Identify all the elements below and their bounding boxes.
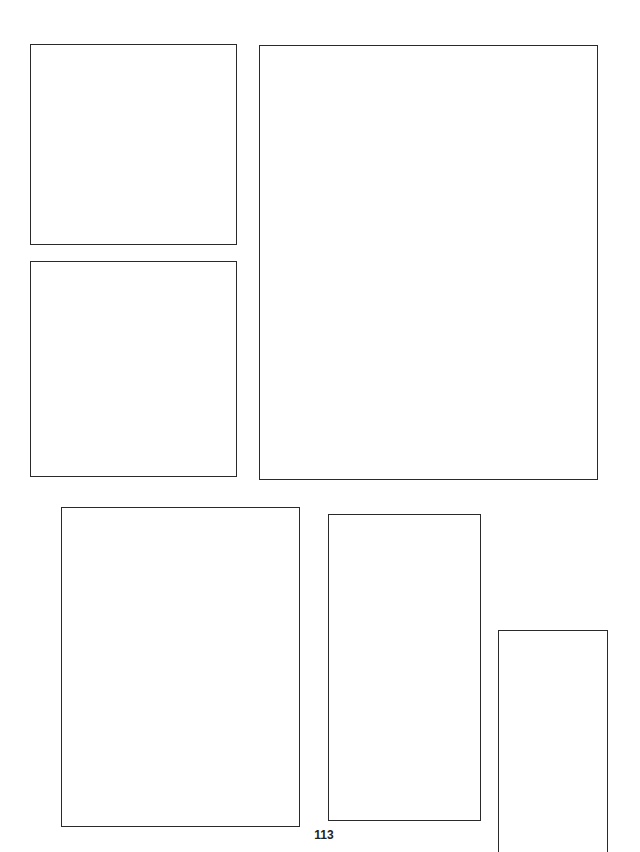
- panel-1: [30, 44, 237, 245]
- panel-5: [328, 514, 481, 821]
- panel-2: [30, 261, 237, 477]
- panel-3: [259, 45, 598, 480]
- page-number: 113: [306, 828, 342, 842]
- panel-6: [498, 630, 608, 852]
- panel-4: [61, 507, 300, 827]
